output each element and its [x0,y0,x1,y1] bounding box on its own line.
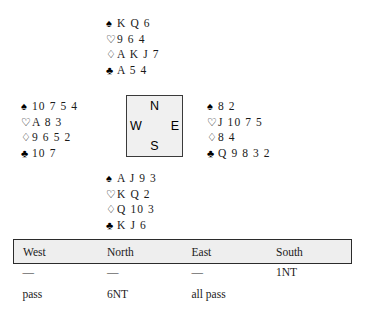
auction-table: West North East South — — — 1NT pass 6NT… [13,239,352,308]
spade-icon: ♠ [21,99,32,115]
north-spades: K Q 6 [117,17,151,29]
south-spades-row: ♠A J 9 3 [106,171,157,187]
bidding-table: West North East South — — — 1NT pass 6NT… [13,239,352,308]
compass-north-label: N [150,99,159,113]
north-hearts: 9 6 4 [117,33,146,45]
west-hearts: A 8 3 [32,116,62,128]
bidding-header-north: North [98,240,183,264]
north-clubs: A 5 4 [117,64,147,76]
bid-cell: — [14,264,99,287]
bidding-row: pass 6NT all pass [14,286,352,308]
heart-icon: ♡ [21,115,32,131]
south-diamonds: Q 10 3 [117,203,155,215]
club-icon: ♣ [207,146,218,162]
bidding-header-row: West North East South [14,240,352,264]
bid-cell: 6NT [98,286,183,308]
bidding-header-south: South [267,240,352,264]
north-hearts-row: ♡9 6 4 [106,32,160,48]
diamond-icon: ♢ [21,130,32,146]
east-hearts-row: ♡J 10 7 5 [207,115,271,131]
south-diamonds-row: ♢Q 10 3 [106,202,157,218]
bid-cell: — [98,264,183,287]
bid-cell: 1NT [267,264,352,287]
hand-east: ♠8 2 ♡J 10 7 5 ♢8 4 ♣Q 9 8 3 2 [207,99,271,161]
hand-west: ♠10 7 5 4 ♡A 8 3 ♢9 6 5 2 ♣10 7 [21,99,78,161]
bidding-header-west: West [14,240,99,264]
bid-cell: all pass [183,286,268,308]
heart-icon: ♡ [106,32,117,48]
spade-icon: ♠ [106,16,117,32]
north-clubs-row: ♣A 5 4 [106,63,160,79]
hand-south: ♠A J 9 3 ♡K Q 2 ♢Q 10 3 ♣K J 6 [106,171,157,233]
east-clubs: Q 9 8 3 2 [218,147,271,159]
bidding-table-body: — — — 1NT pass 6NT all pass [14,264,352,309]
south-spades: A J 9 3 [117,172,157,184]
east-spades: 8 2 [218,100,236,112]
east-clubs-row: ♣Q 9 8 3 2 [207,146,271,162]
diamond-icon: ♢ [106,47,117,63]
heart-icon: ♡ [106,187,117,203]
south-clubs: K J 6 [117,219,147,231]
east-diamonds-row: ♢8 4 [207,130,271,146]
bidding-row: — — — 1NT [14,264,352,287]
east-hearts: J 10 7 5 [218,116,263,128]
west-diamonds: 9 6 5 2 [32,131,71,143]
west-spades: 10 7 5 4 [32,100,78,112]
compass-east-label: E [171,119,179,133]
west-hearts-row: ♡A 8 3 [21,115,78,131]
bid-cell: — [183,264,268,287]
hand-north: ♠K Q 6 ♡9 6 4 ♢A K J 7 ♣A 5 4 [106,16,160,78]
west-clubs: 10 7 [32,147,57,159]
south-hearts-row: ♡K Q 2 [106,187,157,203]
heart-icon: ♡ [207,115,218,131]
west-clubs-row: ♣10 7 [21,146,78,162]
north-diamonds: A K J 7 [117,48,160,60]
club-icon: ♣ [106,63,117,79]
spade-icon: ♠ [207,99,218,115]
bid-cell: pass [14,286,99,308]
spade-icon: ♠ [106,171,117,187]
bidding-table-head: West North East South [14,240,352,264]
diamond-icon: ♢ [106,202,117,218]
club-icon: ♣ [21,146,32,162]
compass-box: N W E S [126,95,183,157]
north-spades-row: ♠K Q 6 [106,16,160,32]
east-diamonds: 8 4 [218,131,236,143]
bid-cell [267,286,352,308]
north-diamonds-row: ♢A K J 7 [106,47,160,63]
compass-west-label: W [130,119,142,133]
west-spades-row: ♠10 7 5 4 [21,99,78,115]
east-spades-row: ♠8 2 [207,99,271,115]
south-clubs-row: ♣K J 6 [106,218,157,234]
club-icon: ♣ [106,218,117,234]
west-diamonds-row: ♢9 6 5 2 [21,130,78,146]
bidding-header-east: East [183,240,268,264]
compass-south-label: S [150,139,158,153]
south-hearts: K Q 2 [117,188,151,200]
diamond-icon: ♢ [207,130,218,146]
